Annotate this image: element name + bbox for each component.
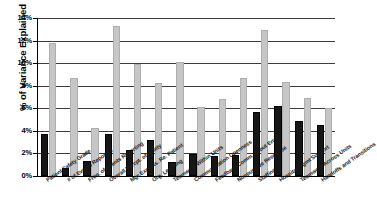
y-tick-mark bbox=[33, 176, 37, 177]
y-tick-label: 8% bbox=[2, 82, 32, 90]
y-tick-mark bbox=[33, 131, 37, 132]
bar-gray bbox=[113, 26, 120, 176]
y-tick-mark bbox=[33, 18, 37, 19]
y-tick-label: 2% bbox=[2, 149, 32, 157]
bar-gray bbox=[91, 128, 98, 176]
bar-gray bbox=[282, 82, 289, 176]
y-tick-label: 0% bbox=[2, 172, 32, 180]
y-tick-mark bbox=[33, 41, 37, 42]
y-tick-mark bbox=[33, 63, 37, 64]
y-tick-mark bbox=[33, 108, 37, 109]
y-tick-label: 12% bbox=[2, 37, 32, 45]
y-tick-mark bbox=[33, 86, 37, 87]
y-tick-mark bbox=[33, 153, 37, 154]
bar-gray bbox=[49, 43, 56, 176]
bar-gray bbox=[261, 30, 268, 176]
chart-title bbox=[60, 0, 310, 9]
bar-black bbox=[41, 134, 48, 176]
y-tick-label: 14% bbox=[2, 14, 32, 22]
y-tick-label: 4% bbox=[2, 127, 32, 135]
x-axis-tick-labels: Patient Safety Grade# of Events Reported… bbox=[37, 178, 334, 223]
y-tick-label: 10% bbox=[2, 59, 32, 67]
y-tick-label: 6% bbox=[2, 104, 32, 112]
